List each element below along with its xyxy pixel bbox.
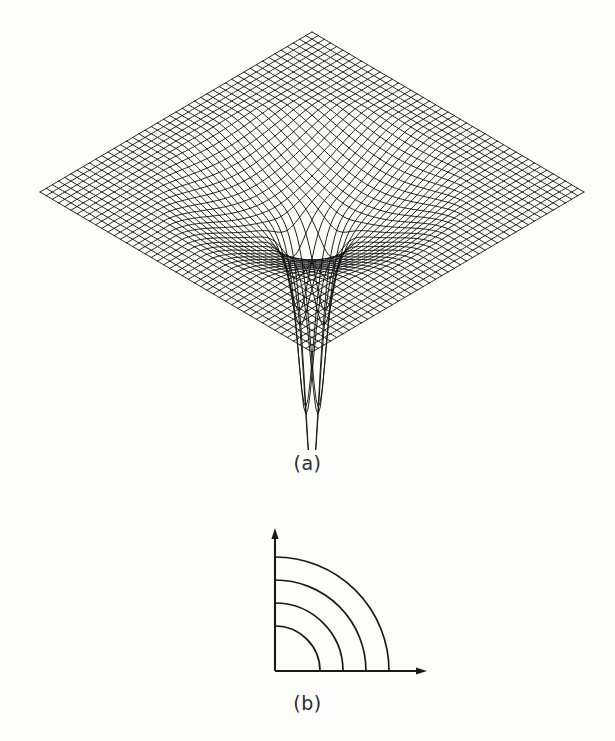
x-axis-arrowhead-icon: [416, 667, 427, 674]
contour-arc-1: [275, 626, 320, 671]
mesh-line-v: [275, 54, 547, 214]
wireframe-mesh: [40, 32, 584, 450]
mesh-line-u: [306, 188, 578, 348]
mesh-line-v: [114, 148, 386, 308]
mesh-line-u: [275, 170, 547, 330]
mesh-line-u: [225, 141, 497, 301]
mesh-line-u: [77, 54, 349, 214]
figure-root: (a) (b): [0, 0, 615, 741]
mesh-line-v: [250, 68, 522, 228]
mesh-line-u: [65, 47, 337, 207]
mesh-line-u: [83, 57, 355, 217]
mesh-line-u: [238, 148, 510, 308]
mesh-line-u: [287, 177, 559, 337]
mesh-line-v: [127, 141, 399, 301]
mesh-line-u: [256, 159, 528, 319]
mesh-line-v: [225, 83, 497, 243]
contour-axes: [271, 528, 427, 675]
mesh-line-u: [250, 156, 522, 316]
mesh-line-u: [102, 68, 374, 228]
mesh-line-v: [96, 159, 368, 319]
mesh-line-v: [133, 137, 405, 297]
contour-arc-3: [275, 580, 366, 671]
panel-b-contour-plot: [0, 490, 615, 690]
mesh-line-v: [269, 57, 541, 217]
contour-arc-4: [275, 557, 389, 671]
mesh-line-u: [127, 83, 399, 243]
mesh-line-v: [77, 170, 349, 330]
mesh-line-u: [263, 163, 535, 323]
panel-a-surface-plot: [0, 0, 615, 450]
panel-a-caption: (a): [0, 452, 615, 474]
mesh-line-u: [219, 137, 491, 297]
contour-plot-canvas: [0, 490, 615, 690]
surface-plot-canvas: [0, 0, 615, 450]
contour-arc-2: [275, 603, 343, 671]
panel-b-caption: (b): [0, 692, 615, 714]
contour-lines: [275, 557, 389, 671]
mesh-line-v: [89, 163, 361, 323]
y-axis-arrowhead-icon: [271, 528, 278, 539]
